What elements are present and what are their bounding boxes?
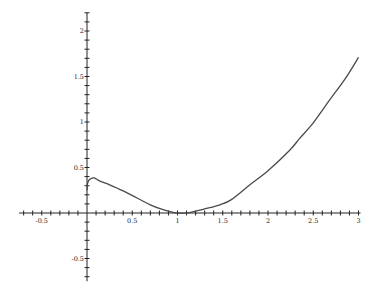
y-tick-label: 1 <box>80 118 84 126</box>
x-axis-tick-labels: -0.50.511.522.53 <box>35 217 360 225</box>
function-plot: -0.50.511.522.53 21.510.5-0.5 <box>0 0 378 295</box>
y-axis-tick-labels: 21.510.5-0.5 <box>71 27 84 262</box>
x-tick-label: 2.5 <box>308 217 318 225</box>
function-curve <box>87 57 359 213</box>
y-tick-label: 1.5 <box>74 73 84 81</box>
x-tick-label: -0.5 <box>35 217 48 225</box>
x-tick-label: 0.5 <box>127 217 137 225</box>
y-tick-label: 2 <box>80 27 84 35</box>
x-tick-label: 1 <box>175 217 179 225</box>
x-tick-label: 2 <box>266 217 270 225</box>
x-tick-label: 3 <box>356 217 360 225</box>
y-tick-label: -0.5 <box>71 255 84 263</box>
y-axis: 21.510.5-0.5 <box>71 13 89 281</box>
x-tick-label: 1.5 <box>218 217 228 225</box>
y-tick-label: 0.5 <box>74 164 84 172</box>
